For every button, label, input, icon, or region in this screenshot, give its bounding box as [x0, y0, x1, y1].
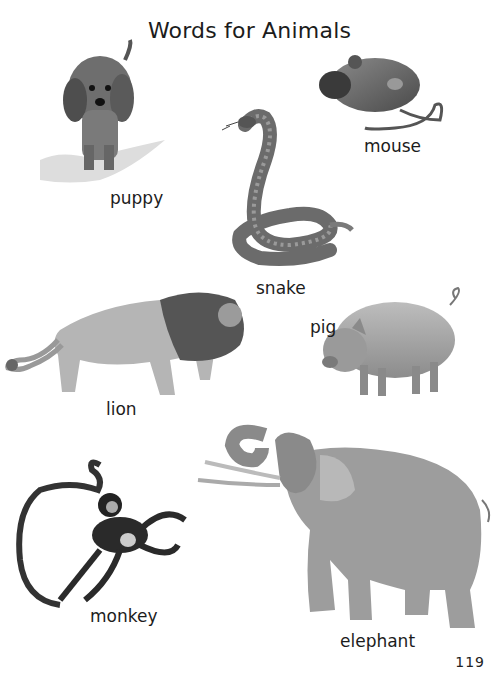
- puppy-illustration: [40, 40, 165, 183]
- snake-illustration: [222, 116, 352, 259]
- page-number: 119: [455, 654, 485, 670]
- mouse-illustration: [319, 55, 442, 129]
- label-puppy: puppy: [110, 188, 163, 208]
- elephant-illustration: [198, 432, 489, 628]
- label-monkey: monkey: [90, 606, 158, 626]
- label-snake: snake: [256, 278, 306, 298]
- page-title: Words for Animals: [0, 18, 499, 43]
- label-lion: lion: [106, 399, 137, 419]
- label-mouse: mouse: [364, 136, 421, 156]
- monkey-illustration: [19, 462, 185, 605]
- label-elephant: elephant: [340, 631, 415, 651]
- label-pig: pig: [310, 317, 336, 337]
- lion-illustration: [6, 293, 244, 396]
- pig-illustration: [322, 288, 459, 396]
- illustrations: [0, 0, 499, 676]
